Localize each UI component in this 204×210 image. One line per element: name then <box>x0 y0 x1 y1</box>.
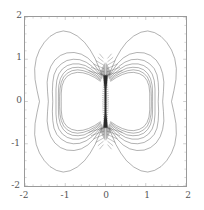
fan-line-2 <box>107 64 117 69</box>
y-tick-label-minus1: -1 <box>4 139 20 148</box>
contour-level-0.4-right <box>109 52 164 150</box>
y-tick-label-0: 0 <box>6 96 22 105</box>
fan-line-2 <box>107 134 117 139</box>
contour-level-0.8-left <box>56 64 101 139</box>
fan-line-5 <box>108 54 112 59</box>
x-tick-label-1: 1 <box>138 191 156 200</box>
fan-line-4 <box>98 57 104 62</box>
x-tick-label-2: 2 <box>179 191 197 200</box>
y-tick-label-2: 2 <box>6 11 22 20</box>
fan-line-5 <box>99 54 103 59</box>
fan-line-4 <box>98 141 104 146</box>
fan-line-2 <box>93 134 103 139</box>
contour-plot-figure: 2 1 0 -1 -2 -2 -1 0 1 2 <box>0 0 204 210</box>
fan-line-5 <box>99 145 103 150</box>
x-tick-label-minus1: -1 <box>56 191 74 200</box>
contour-level-1.4-left <box>60 70 101 133</box>
fan-line-5 <box>108 145 112 150</box>
contour-level-2-left <box>61 72 100 130</box>
contour-lines-group <box>25 17 186 186</box>
fan-line-2 <box>93 64 103 69</box>
y-tick-label-1: 1 <box>6 53 22 62</box>
fan-line-4 <box>108 57 114 62</box>
contour-level-0.4-left <box>47 52 102 150</box>
y-tick-label-minus2: -2 <box>4 181 20 190</box>
fan-line-4 <box>108 141 114 146</box>
contour-level-0.2-left <box>35 31 103 172</box>
x-tick-label-0: 0 <box>97 191 115 200</box>
contour-level-0.8-right <box>110 64 155 139</box>
contour-level-2-right <box>111 72 150 130</box>
x-tick-label-minus2: -2 <box>15 191 33 200</box>
contour-level-1.4-right <box>110 70 151 133</box>
plot-frame <box>24 16 187 187</box>
contour-level-0.2-right <box>108 31 176 172</box>
